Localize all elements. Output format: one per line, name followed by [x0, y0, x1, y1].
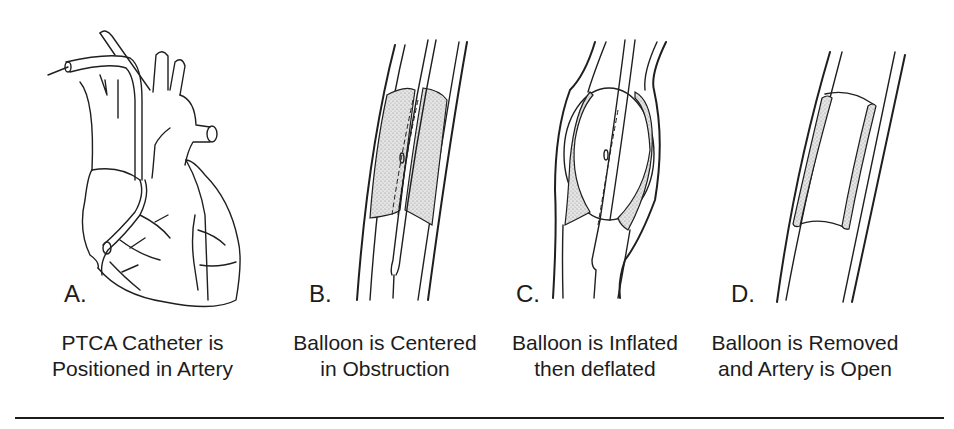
caption-a-line1: PTCA Catheter is [40, 330, 245, 356]
caption-c: Balloon is Inflated then deflated [500, 330, 690, 382]
bottom-rule [15, 417, 944, 419]
caption-b-line1: Balloon is Centered [285, 330, 485, 356]
caption-d-line1: Balloon is Removed [700, 330, 910, 356]
panel-b-illustration [357, 40, 467, 300]
caption-a: PTCA Catheter is Positioned in Artery [40, 330, 245, 382]
caption-d: Balloon is Removed and Artery is Open [700, 330, 910, 382]
panel-a-label: A. [64, 282, 87, 306]
panel-d-illustration [777, 52, 905, 302]
caption-c-line1: Balloon is Inflated [500, 330, 690, 356]
caption-d-line2: and Artery is Open [700, 356, 910, 382]
caption-b: Balloon is Centered in Obstruction [285, 330, 485, 382]
panel-d-label: D. [731, 282, 755, 306]
panel-c-label: C. [516, 282, 540, 306]
caption-b-line2: in Obstruction [285, 356, 485, 382]
caption-c-line2: then deflated [500, 356, 690, 382]
panel-b-label: B. [309, 282, 332, 306]
caption-a-line2: Positioned in Artery [40, 356, 245, 382]
panel-c-illustration [553, 40, 666, 298]
heart-illustration [48, 31, 240, 306]
